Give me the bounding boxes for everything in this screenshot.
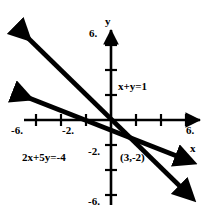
x-tick-label-neg2: -2. bbox=[62, 125, 74, 136]
x-tick-label-pos6: 6. bbox=[186, 125, 194, 136]
intersection-point-label: (3,-2) bbox=[120, 152, 145, 163]
y-tick-label-neg6: -6. bbox=[88, 196, 100, 207]
y-tick-label-neg2: -2. bbox=[88, 146, 100, 157]
x-axis-name-label: x bbox=[190, 143, 196, 154]
equation-label-line2: 2x+5y=-4 bbox=[22, 152, 66, 163]
equation-label-line1: x+y=1 bbox=[118, 81, 147, 92]
x-tick-label-neg6: -6. bbox=[11, 125, 23, 136]
y-tick-label-pos6: 6. bbox=[89, 28, 97, 39]
coordinate-plane-svg bbox=[0, 0, 213, 223]
graph-figure: -6. -2. 6. 6. -2. -6. x y x+y=1 2x+5y=-4… bbox=[0, 0, 213, 223]
y-axis-name-label: y bbox=[105, 16, 111, 27]
